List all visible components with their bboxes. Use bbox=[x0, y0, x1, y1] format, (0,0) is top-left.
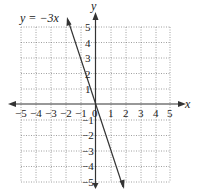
x-tick-labels: −5 −4 −3 −2 −1 0 1 2 3 4 5 bbox=[15, 107, 173, 119]
equation-label: y = −3x bbox=[19, 11, 60, 25]
x-axis-label: x bbox=[184, 97, 191, 111]
coordinate-plane: x y y = −3x −5 −4 −3 −2 −1 0 1 2 3 4 5 1… bbox=[0, 0, 199, 189]
y-tick-labels-positive: 1 2 3 4 5 bbox=[85, 21, 91, 95]
y-tick-label: −1 bbox=[82, 114, 94, 126]
x-tick-label: −3 bbox=[45, 107, 57, 119]
x-tick-label: 3 bbox=[138, 107, 144, 119]
x-tick-label: 1 bbox=[108, 107, 114, 119]
y-tick-label: −2 bbox=[82, 129, 94, 141]
y-tick-label: −3 bbox=[82, 145, 94, 157]
x-tick-label: 4 bbox=[153, 107, 159, 119]
y-tick-label: 2 bbox=[85, 68, 91, 80]
y-tick-labels-negative: −1 −2 −3 −4 −5 bbox=[82, 114, 94, 188]
x-tick-label: 5 bbox=[167, 107, 173, 119]
y-tick-label: 1 bbox=[85, 83, 91, 95]
x-tick-label: 2 bbox=[123, 107, 129, 119]
x-tick-label: −5 bbox=[15, 107, 27, 119]
y-tick-label: −4 bbox=[82, 160, 94, 172]
y-tick-label: 4 bbox=[85, 37, 91, 49]
y-tick-label: 5 bbox=[85, 21, 91, 33]
y-tick-label: 3 bbox=[85, 52, 91, 64]
x-tick-label: −2 bbox=[60, 107, 72, 119]
x-tick-label: −4 bbox=[30, 107, 42, 119]
y-axis-label: y bbox=[90, 0, 97, 13]
y-tick-label: −5 bbox=[82, 176, 94, 188]
